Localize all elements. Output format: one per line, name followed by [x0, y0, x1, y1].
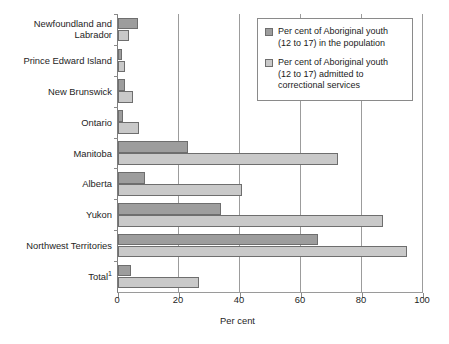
y-axis-label-northwest-territories: Northwest Territories	[0, 240, 112, 251]
legend-label-admitted-line1: Per cent of Aboriginal youth	[278, 57, 388, 67]
bar-group	[118, 138, 423, 169]
y-axis-label-alberta: Alberta	[0, 178, 112, 189]
bar-admitted	[118, 215, 383, 227]
legend-label-admitted-line2: (12 to 17) admitted to	[278, 69, 364, 79]
bar-admitted	[118, 184, 242, 196]
y-axis-tick	[114, 45, 118, 46]
x-axis-title-text: Per cent	[220, 315, 255, 326]
bar-population	[118, 234, 318, 246]
bar-admitted	[118, 91, 133, 103]
x-axis-tick-label-0: 0	[114, 294, 119, 305]
legend-label-population: Per cent of Aboriginal youth (12 to 17) …	[278, 26, 388, 49]
bar-admitted	[118, 122, 139, 134]
bar-population	[118, 49, 122, 61]
x-axis-tick-label-100: 100	[414, 294, 430, 305]
y-axis-tick	[114, 261, 118, 262]
y-axis-label-prince-edward-island: Prince Edward Island	[0, 55, 112, 66]
bar-population	[118, 79, 125, 91]
bar-chart: Newfoundland andLabradorPrince Edward Is…	[0, 0, 449, 344]
legend-swatch-population-icon	[265, 28, 273, 36]
chart-legend: Per cent of Aboriginal youth (12 to 17) …	[257, 18, 413, 101]
y-axis-tick	[114, 138, 118, 139]
x-axis-title: Per cent	[0, 315, 449, 326]
bar-admitted	[118, 153, 338, 165]
y-axis-label-total: Total1	[0, 271, 112, 282]
bar-population	[118, 265, 131, 277]
bar-population	[118, 18, 138, 30]
y-axis-label-new-brunswick: New Brunswick	[0, 86, 112, 97]
y-axis-tick	[114, 76, 118, 77]
bar-admitted	[118, 277, 199, 289]
bar-group	[118, 107, 423, 138]
legend-label-population-line1: Per cent of Aboriginal youth	[278, 26, 388, 36]
legend-item-admitted: Per cent of Aboriginal youth (12 to 17) …	[265, 57, 405, 92]
bar-group	[118, 199, 423, 230]
bar-population	[118, 141, 188, 153]
legend-label-admitted-line3: correctional services	[278, 80, 360, 90]
x-axis-tick-label-40: 40	[234, 294, 244, 305]
y-axis-tick	[114, 168, 118, 169]
x-axis-tick-label-20: 20	[173, 294, 183, 305]
bar-admitted	[118, 246, 407, 258]
y-axis-label-newfoundland-and-labrador: Newfoundland andLabrador	[0, 18, 112, 40]
y-axis-label-yukon: Yukon	[0, 209, 112, 220]
bar-admitted	[118, 61, 125, 73]
y-axis-label-ontario: Ontario	[0, 117, 112, 128]
bar-population	[118, 203, 221, 215]
x-axis-tick-label-60: 60	[295, 294, 305, 305]
y-axis-label-manitoba: Manitoba	[0, 148, 112, 159]
y-axis-tick	[114, 199, 118, 200]
x-axis-tick-labels: 020406080100	[0, 294, 449, 308]
bar-admitted	[118, 30, 129, 42]
y-axis-tick	[114, 230, 118, 231]
bar-group	[118, 230, 423, 261]
y-axis-tick	[114, 107, 118, 108]
bar-group	[118, 261, 423, 292]
x-axis-tick-label-80: 80	[356, 294, 366, 305]
y-axis-tick	[114, 14, 118, 15]
bar-population	[118, 110, 123, 122]
legend-item-population: Per cent of Aboriginal youth (12 to 17) …	[265, 26, 405, 49]
legend-swatch-admitted-icon	[265, 59, 273, 67]
legend-label-admitted: Per cent of Aboriginal youth (12 to 17) …	[278, 57, 388, 92]
y-axis-labels: Newfoundland andLabradorPrince Edward Is…	[0, 14, 112, 292]
legend-label-population-line2: (12 to 17) in the population	[278, 38, 385, 48]
bar-group	[118, 168, 423, 199]
bar-population	[118, 172, 145, 184]
